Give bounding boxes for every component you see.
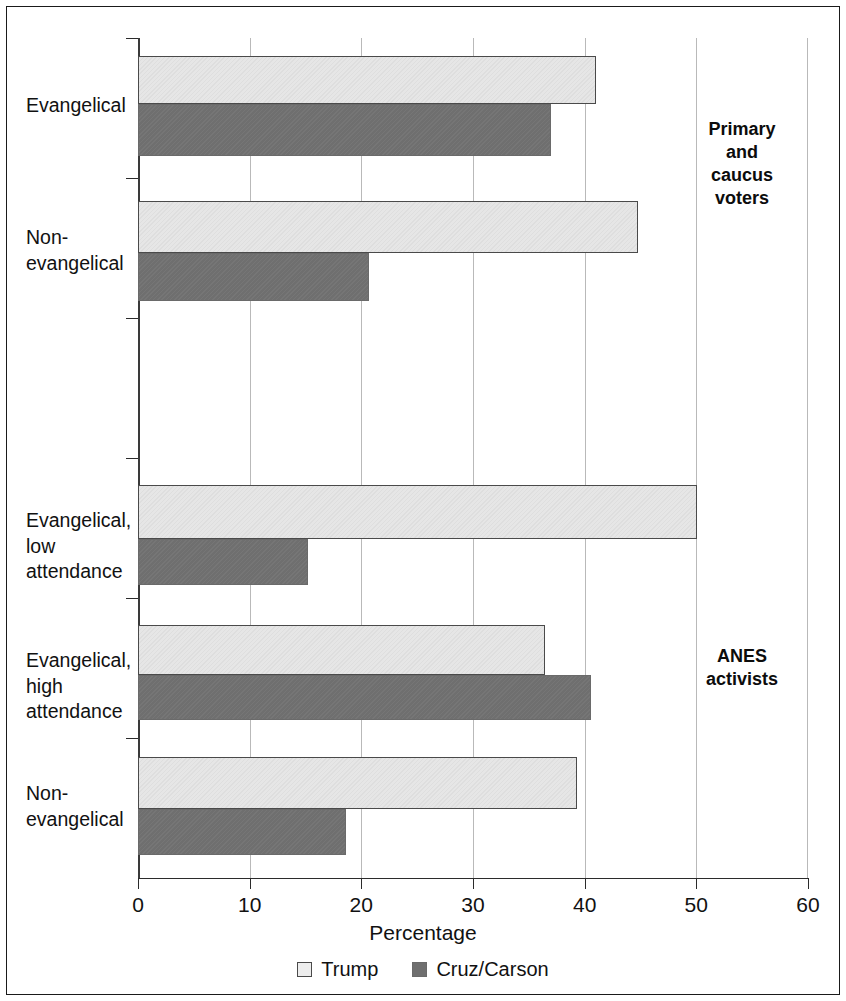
bar-trump-evangelical-high-attendance [138, 625, 545, 675]
y-tick-5 [126, 738, 138, 739]
x-tick-label-30: 30 [438, 893, 508, 917]
legend-label-trump: Trump [321, 958, 378, 981]
gridline-10 [250, 38, 251, 878]
bar-cruz-nonevangelical-primary [138, 253, 369, 301]
x-tick-label-10: 10 [215, 893, 285, 917]
bar-trump-evangelical-low-attendance [138, 485, 697, 539]
x-tick-20 [361, 878, 362, 889]
x-tick-0 [138, 878, 139, 889]
category-label-nonevangelical-anes: Non- evangelical [26, 781, 132, 832]
y-tick-4 [126, 598, 138, 599]
x-tick-40 [585, 878, 586, 889]
x-tick-60 [808, 878, 809, 889]
chart-figure: Evangelical Non- evangelical Evangelical… [0, 0, 846, 1001]
x-tick-label-20: 20 [326, 893, 396, 917]
x-tick-label-60: 60 [773, 893, 843, 917]
x-axis-title: Percentage [0, 921, 846, 945]
bar-cruz-evangelical-high-attendance [138, 675, 591, 720]
y-tick-2 [126, 318, 138, 319]
y-tick-1 [126, 178, 138, 179]
legend-item-trump: Trump [297, 958, 378, 981]
bar-cruz-nonevangelical-anes [138, 809, 346, 855]
gridline-30 [473, 38, 474, 878]
panel-note-primary-caucus-voters: Primary and caucus voters [672, 118, 812, 210]
bar-trump-nonevangelical-anes [138, 757, 577, 809]
gridline-0 [138, 38, 140, 878]
x-tick-label-40: 40 [550, 893, 620, 917]
x-tick-50 [696, 878, 697, 889]
bar-cruz-evangelical-low-attendance [138, 539, 308, 585]
y-tick-0 [126, 38, 138, 39]
chart-legend: Trump Cruz/Carson [0, 958, 846, 981]
legend-label-cruz-carson: Cruz/Carson [436, 958, 548, 981]
bar-trump-evangelical-primary [138, 56, 596, 104]
legend-item-cruz-carson: Cruz/Carson [412, 958, 548, 981]
panel-note-anes-activists: ANES activists [672, 645, 812, 691]
bar-trump-nonevangelical-primary [138, 201, 638, 253]
category-label-evangelical-high-attendance: Evangelical, high attendance [26, 648, 132, 725]
x-tick-label-50: 50 [661, 893, 731, 917]
gridline-40 [585, 38, 586, 878]
category-label-evangelical-low-attendance: Evangelical, low attendance [26, 508, 132, 585]
category-label-nonevangelical-primary: Non- evangelical [26, 225, 132, 276]
x-tick-30 [473, 878, 474, 889]
x-tick-10 [250, 878, 251, 889]
legend-swatch-cruz-carson-icon [412, 962, 427, 977]
category-label-evangelical-primary: Evangelical [26, 93, 132, 119]
gridline-20 [361, 38, 362, 878]
x-tick-label-0: 0 [103, 893, 173, 917]
legend-swatch-trump-icon [297, 962, 312, 977]
bar-cruz-evangelical-primary [138, 104, 551, 156]
y-tick-3 [126, 458, 138, 459]
